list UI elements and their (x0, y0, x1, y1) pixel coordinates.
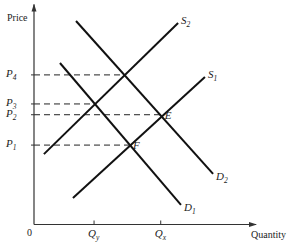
price-label-p4: P4 (5, 67, 17, 82)
demand-curve-d1 (60, 63, 181, 205)
quantity-label-qy: Qy (88, 227, 100, 242)
supply-curve-s2 (44, 23, 178, 154)
y-axis-label: Price (7, 12, 28, 23)
dashed-guides (31, 75, 161, 225)
x-axis-label: Quantity (251, 229, 286, 240)
point-label-e: E (164, 109, 172, 121)
origin-label: 0 (27, 227, 32, 238)
curve-label-s1: S1 (208, 68, 217, 83)
supply-demand-diagram: Price Quantity 0 P4P3P2P1QyQxS2S1D2D1EF (0, 0, 293, 244)
quantity-label-qx: Qx (155, 227, 167, 242)
demand-curve-d2 (76, 21, 213, 174)
curve-label-d1: D1 (183, 201, 196, 216)
curve-label-s2: S2 (181, 14, 191, 29)
curve-label-d2: D2 (215, 170, 228, 185)
price-label-p1: P1 (5, 137, 16, 152)
supply-curve-s1 (73, 77, 205, 198)
curves (44, 21, 213, 205)
point-label-f: F (132, 139, 140, 151)
